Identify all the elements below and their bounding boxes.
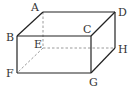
vertex-label-G: G (89, 76, 98, 89)
vertex-label-C: C (83, 23, 91, 36)
cuboid-figure: A D B C E H F G (0, 0, 134, 91)
vertex-label-E: E (34, 38, 42, 51)
vertex-label-F: F (6, 67, 14, 80)
edge-AB (17, 12, 43, 36)
vertex-label-H: H (118, 43, 128, 56)
vertex-label-B: B (6, 31, 14, 44)
edge-GH (91, 48, 115, 73)
vertex-label-A: A (30, 1, 40, 14)
edge-EF (17, 48, 43, 73)
cuboid-diagram: A D B C E H F G (0, 0, 134, 91)
edge-CD (91, 12, 115, 36)
vertex-label-D: D (118, 6, 127, 19)
